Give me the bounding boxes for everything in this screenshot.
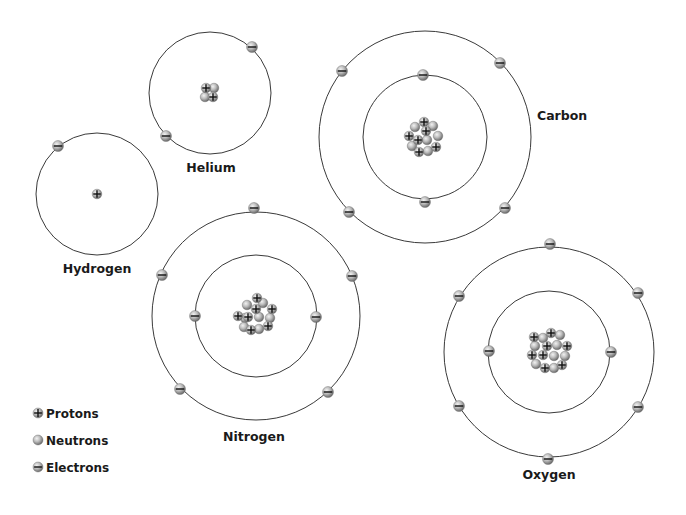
electron-icon [247,42,258,53]
proton-icon [33,408,43,418]
electron-icon [344,207,355,218]
electron-icon [157,270,168,281]
electron-icon [633,402,644,413]
legend: ProtonsNeutronsElectrons [33,407,109,475]
atom-label-oxygen: Oxygen [522,467,575,482]
proton-icon [263,321,273,331]
electron-icon [190,311,201,322]
electron-icon [53,141,64,152]
electron-icon [545,239,556,250]
proton-icon [92,189,102,199]
atoms-layer: HydrogenHeliumCarbonNitrogenOxygen [36,31,654,482]
nucleus [200,83,219,102]
proton-icon [413,135,423,145]
proton-icon [208,92,218,102]
electron-icon [495,58,506,69]
electron-icon [543,454,554,465]
electron-icon [311,312,322,323]
electron-icon [500,203,511,214]
atom-carbon: Carbon [319,31,587,243]
orbit-shell-1 [488,291,610,413]
neutron-icon [530,341,540,351]
electron-icon [606,347,617,358]
proton-icon [538,350,548,360]
proton-icon [251,304,261,314]
neutron-icon [560,351,570,361]
proton-icon [246,325,256,335]
proton-icon [557,360,567,370]
electron-icon [337,66,348,77]
legend-label: Electrons [46,461,109,475]
neutron-icon [552,340,562,350]
electron-icon [484,346,495,357]
nucleus [92,189,102,199]
legend-item-protons: Protons [33,407,99,421]
neutron-icon [531,359,541,369]
proton-icon [252,293,262,303]
electron-icon [323,387,334,398]
nucleus [404,117,443,157]
electron-icon [418,70,429,81]
atom-label-nitrogen: Nitrogen [223,429,285,444]
proton-icon [542,341,552,351]
electron-icon [249,203,260,214]
proton-icon [421,126,431,136]
proton-icon [243,312,253,322]
proton-icon [527,350,537,360]
atom-nitrogen: Nitrogen [152,203,360,445]
neutron-icon [410,122,420,132]
proton-icon [540,363,550,373]
neutron-icon [422,135,432,145]
atom-helium: Helium [149,32,271,175]
legend-item-electrons: Electrons [33,461,109,475]
atom-oxygen: Oxygen [444,239,654,483]
electron-icon [633,288,644,299]
atom-label-hydrogen: Hydrogen [63,261,132,276]
neutron-icon [555,330,565,340]
proton-icon [419,117,429,127]
electron-icon [175,384,186,395]
legend-item-neutrons: Neutrons [33,434,108,448]
neutron-icon [433,131,443,141]
nucleus [527,328,572,373]
bohr-atom-diagram: HydrogenHeliumCarbonNitrogenOxygen Proto… [0,0,686,515]
proton-icon [529,332,539,342]
electron-icon [33,462,43,472]
legend-label: Protons [46,407,99,421]
electron-icon [420,197,431,208]
electron-icon [161,131,172,142]
proton-icon [546,328,556,338]
proton-icon [562,341,572,351]
neutron-icon [549,351,559,361]
proton-icon [233,311,243,321]
proton-icon [431,142,441,152]
atom-label-carbon: Carbon [537,108,587,123]
proton-icon [414,147,424,157]
proton-icon [201,83,211,93]
electron-icon [454,291,465,302]
proton-icon [404,131,414,141]
nucleus [233,293,277,335]
neutron-icon [33,435,43,445]
atom-hydrogen: Hydrogen [36,133,158,276]
orbit-shell-2 [444,247,654,457]
atom-label-helium: Helium [186,160,235,175]
electron-icon [347,271,358,282]
legend-label: Neutrons [46,434,108,448]
neutron-icon [242,300,252,310]
proton-icon [267,304,277,314]
electron-icon [454,401,465,412]
